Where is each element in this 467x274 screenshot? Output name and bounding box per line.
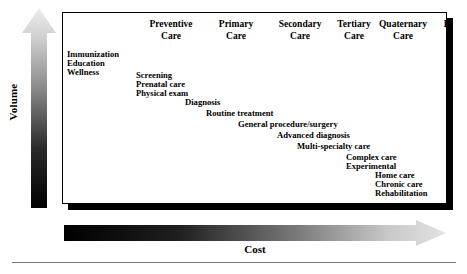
volume-arrow-icon <box>22 8 56 208</box>
column-header-extended-care: Extended Care <box>403 19 447 42</box>
column-header-line1: Extended <box>403 19 447 31</box>
service-label: Multi-specialty care <box>297 142 370 152</box>
service-label: Advanced diagnosis <box>277 131 350 141</box>
service-label: Physical exam <box>136 89 188 99</box>
service-label: Diagnosis <box>185 98 220 108</box>
service-label: Routine treatment <box>206 109 273 119</box>
service-label: Wellness <box>67 68 99 78</box>
column-header-line2: Care <box>403 31 447 43</box>
bottom-divider <box>12 262 456 263</box>
volume-axis-label: Volume <box>7 67 19 137</box>
care-matrix-box: Preventive Care Primary Care Secondary C… <box>62 12 447 204</box>
service-label: General procedure/surgery <box>238 120 338 130</box>
cost-axis-label: Cost <box>64 243 446 255</box>
service-label: Rehabilitation <box>375 189 428 199</box>
care-continuum-diagram: Volume Preventive Care Primary Care Seco… <box>0 0 467 274</box>
